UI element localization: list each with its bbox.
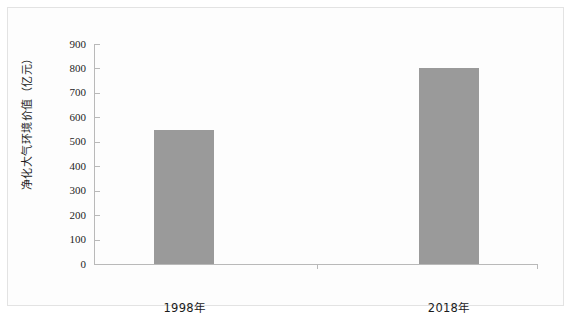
y-axis-tick-label: 300	[70, 185, 96, 196]
y-axis-tick-mark	[95, 93, 100, 94]
y-axis-tick-mark	[95, 142, 100, 143]
chart-figure: 净化大气环境价值（亿元） 010020030040050060070080090…	[7, 7, 564, 306]
bar	[419, 68, 479, 264]
y-axis-title: 净化大气环境价值（亿元）	[18, 21, 34, 221]
y-axis-tick-mark	[95, 68, 100, 69]
y-axis-tick-mark	[95, 191, 100, 192]
y-axis-tick-mark	[95, 166, 100, 167]
y-axis-tick-label: 900	[70, 38, 96, 49]
y-axis-tick-mark	[95, 215, 100, 216]
x-axis-tick-label: 2018年	[428, 299, 470, 315]
y-axis-tick-mark	[95, 117, 100, 118]
y-axis-tick-label: 0	[81, 258, 96, 269]
y-axis-tick-label: 700	[70, 87, 96, 98]
y-axis-tick-mark	[95, 240, 100, 241]
y-axis-tick-label: 500	[70, 136, 96, 147]
y-axis-tick-label: 400	[70, 160, 96, 171]
y-axis-tick-label: 200	[70, 209, 96, 220]
y-axis-tick-label: 800	[70, 62, 96, 73]
y-axis-tick-mark	[95, 44, 100, 45]
y-axis-tick-label: 100	[70, 234, 96, 245]
x-axis-tick-label: 1998年	[163, 299, 205, 315]
x-axis-tick-mark	[537, 264, 538, 269]
plot-area: 0100200300400500600700800900 1998年2018年	[94, 44, 538, 265]
x-axis-tick-mark	[317, 264, 318, 269]
y-axis-tick-mark	[95, 264, 100, 265]
bar	[154, 130, 214, 264]
y-axis-tick-label: 600	[70, 111, 96, 122]
